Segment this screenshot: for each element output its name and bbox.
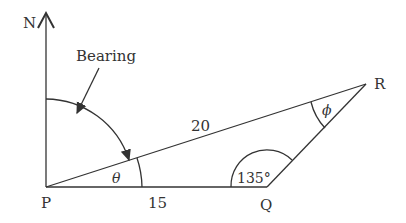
angle-theta-label: θ <box>112 170 121 186</box>
angle-Q-label: 135° <box>237 170 271 186</box>
bearing-triangle-diagram: N Bearing θ 135° ϕ 20 15 P Q R <box>0 0 406 223</box>
side-PQ-label: 15 <box>148 194 167 212</box>
point-R-label: R <box>374 75 386 93</box>
north-label: N <box>23 14 36 32</box>
bearing-pointer-arrow <box>77 68 99 113</box>
point-P-label: P <box>41 194 51 212</box>
point-Q-label: Q <box>260 196 272 214</box>
side-PR-label: 20 <box>191 117 210 135</box>
bearing-arc <box>46 99 129 160</box>
side-PR <box>46 84 366 187</box>
bearing-label: Bearing <box>76 47 136 65</box>
theta-arc <box>137 158 142 187</box>
angle-phi-label: ϕ <box>322 102 332 118</box>
